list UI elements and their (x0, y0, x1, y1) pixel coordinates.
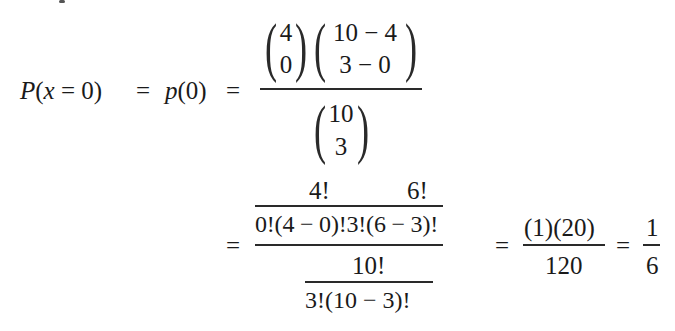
binom3-left-paren: ( (314, 96, 326, 162)
equals-sign-1: = (136, 78, 150, 103)
binom2-right-paren: ) (405, 14, 417, 80)
binom1-bottom: 0 (278, 52, 294, 77)
step4-denominator: 6 (646, 253, 659, 278)
step2-inner-denominator-bar (305, 281, 433, 283)
binom3-right-paren: ) (357, 96, 369, 162)
equals-sign-3: = (226, 233, 240, 258)
binom2-bottom: 3 − 0 (325, 52, 405, 77)
step4-numerator: 1 (646, 215, 659, 240)
step3-fraction-bar (523, 244, 605, 246)
step2-main-fraction-bar (255, 244, 443, 246)
step2-numer-bottom: 0!(4 − 0)!3!(6 − 3)! (255, 212, 445, 236)
step4-fraction-bar (643, 244, 660, 246)
pmf-p: p (165, 77, 178, 104)
step1-fraction-bar (260, 88, 422, 90)
open-paren: ( (35, 77, 43, 104)
equals-zero: = 0) (55, 77, 102, 104)
step2-numer-top-left: 4! (309, 178, 330, 203)
step3-denominator: 120 (545, 253, 583, 278)
step2-denom-bottom: 3!(10 − 3)! (305, 288, 435, 312)
step2-numer-top-right: 6! (407, 178, 428, 203)
equals-sign-2: = (226, 78, 240, 103)
binom3-top: 10 (326, 101, 356, 126)
binom2-top: 10 − 4 (325, 20, 405, 45)
binom3-bottom: 3 (326, 134, 356, 159)
pmf-argument: (0) (178, 77, 207, 104)
lhs-expression: P(x = 0) (20, 78, 102, 103)
cropped-glyph-fragment (59, 0, 65, 3)
binom1-right-paren: ) (295, 14, 307, 80)
binom1-left-paren: ( (265, 14, 277, 80)
step2-inner-numerator-bar (255, 205, 443, 207)
variable-x: x (44, 77, 55, 104)
binom1-top: 4 (278, 20, 294, 45)
pmf-expression: p(0) (165, 78, 207, 103)
equals-sign-4: = (495, 233, 509, 258)
step3-numerator: (1)(20) (524, 215, 595, 240)
step2-denom-top: 10! (352, 253, 385, 278)
equals-sign-5: = (616, 233, 630, 258)
probability-P: P (20, 77, 35, 104)
